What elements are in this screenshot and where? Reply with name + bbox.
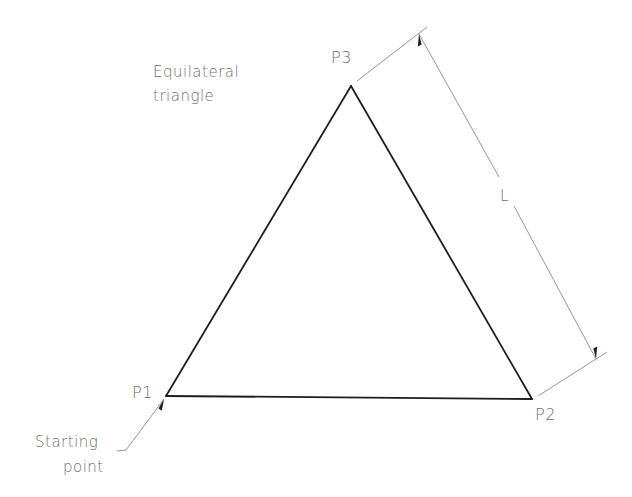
start-note-line-1: Starting — [35, 433, 98, 451]
dimension-label: L — [500, 187, 509, 205]
starting-point-leader: Starting point — [35, 399, 164, 476]
edge-p3-p1 — [166, 86, 351, 396]
edge-p1-p2 — [166, 396, 532, 399]
dimension-line-upper — [419, 34, 499, 177]
edge-p2-p3 — [351, 86, 532, 399]
title-line-1: Equilateral — [153, 63, 239, 81]
start-note-line-2: point — [63, 458, 104, 476]
title-note: Equilateral triangle — [153, 63, 239, 105]
extension-line-p3 — [357, 27, 427, 81]
vertex-label-p2: P2 — [535, 405, 556, 424]
triangle — [166, 86, 532, 399]
title-line-2: triangle — [153, 87, 214, 105]
dimension-line-lower — [514, 206, 596, 359]
vertex-label-p3: P3 — [331, 48, 352, 67]
equilateral-triangle-diagram: L P1 P2 P3 Equilateral triangle Starting… — [0, 0, 632, 497]
vertex-label-p1: P1 — [132, 383, 153, 402]
extension-line-p2 — [538, 352, 607, 396]
dimension-l: L — [357, 27, 607, 396]
leader-line — [117, 399, 164, 451]
